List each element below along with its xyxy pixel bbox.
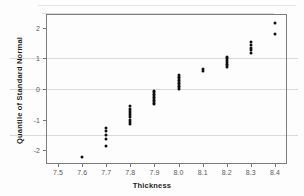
data-point — [153, 89, 156, 92]
x-axis-tick — [203, 164, 204, 167]
x-axis-tick-label: 8.4 — [270, 169, 280, 176]
x-axis-title: Thickness — [0, 181, 304, 190]
y-axis-tick-label: 2 — [24, 24, 40, 31]
y-axis-tick-label: 0 — [24, 86, 40, 93]
x-axis-tick — [58, 164, 59, 167]
x-axis-tick-label: 8.3 — [246, 169, 256, 176]
x-axis-tick-label: 7.5 — [53, 169, 63, 176]
data-point — [105, 126, 108, 129]
x-axis-tick-label: 7.7 — [101, 169, 111, 176]
x-axis-tick-label: 7.9 — [149, 169, 159, 176]
data-point — [129, 105, 132, 108]
scan-artifact-line — [38, 5, 296, 6]
data-point — [105, 137, 108, 140]
data-point — [201, 68, 204, 71]
y-axis-tick — [43, 120, 46, 121]
data-point — [105, 130, 108, 133]
data-point — [105, 133, 108, 136]
y-axis-title: Quantile of Standard Normal — [15, 26, 24, 156]
x-axis-tick — [227, 164, 228, 167]
data-point — [177, 73, 180, 76]
x-axis-tick-label: 7.8 — [125, 169, 135, 176]
x-axis-tick — [106, 164, 107, 167]
x-axis-tick — [82, 164, 83, 167]
y-axis-tick — [43, 150, 46, 151]
x-axis-tick-label: 8.0 — [174, 169, 184, 176]
y-axis-tick-label: -1 — [24, 116, 40, 123]
data-point — [273, 33, 276, 36]
x-axis-tick-label: 8.2 — [222, 169, 232, 176]
qq-plot-figure: 7.57.67.77.87.98.08.18.28.38.4 210-1-2 T… — [0, 0, 304, 196]
x-axis-tick-label: 8.1 — [198, 169, 208, 176]
x-axis-tick-label: 7.6 — [77, 169, 87, 176]
plot-frame — [46, 14, 287, 164]
data-point — [81, 155, 84, 158]
y-axis-tick — [43, 28, 46, 29]
y-axis-tick — [43, 58, 46, 59]
x-axis-tick — [251, 164, 252, 167]
x-axis-tick — [179, 164, 180, 167]
x-axis-tick — [130, 164, 131, 167]
data-point — [249, 40, 252, 43]
data-point — [249, 46, 252, 49]
data-point — [105, 144, 108, 147]
y-axis-tick — [43, 89, 46, 90]
data-point — [225, 55, 228, 58]
data-point — [273, 22, 276, 25]
data-point — [249, 43, 252, 46]
y-axis-tick-label: 1 — [24, 55, 40, 62]
x-axis-tick — [275, 164, 276, 167]
y-axis-tick-label: -2 — [24, 147, 40, 154]
x-axis-tick — [154, 164, 155, 167]
